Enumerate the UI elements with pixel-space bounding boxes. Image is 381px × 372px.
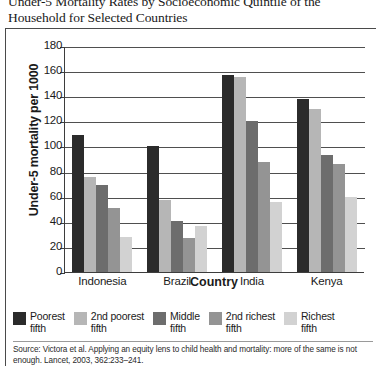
- legend-label: 2nd richest fifth: [226, 311, 275, 334]
- bar: [270, 202, 282, 272]
- legend-swatch: [284, 312, 297, 325]
- legend-item: 2nd richest fifth: [209, 311, 275, 334]
- figure-title: Under-5 Mortality Rates by Socioeconomic…: [8, 0, 368, 25]
- y-tick-label: 0: [22, 265, 62, 277]
- plot-area: 020406080100120140160180 IndonesiaBrazil…: [64, 47, 364, 273]
- legend-label: Poorest fifth: [30, 311, 65, 334]
- bar-group: Brazil: [140, 47, 215, 272]
- legend-item: Middle fifth: [153, 311, 200, 334]
- bar: [171, 221, 183, 272]
- y-tick-label: 20: [22, 240, 62, 252]
- legend-swatch: [74, 312, 87, 325]
- bar: [147, 146, 159, 272]
- bar: [96, 185, 108, 272]
- bar: [297, 99, 309, 272]
- plot-wrapper: Under-5 mortality per 1000 0204060801001…: [6, 29, 376, 287]
- figure-root: Under-5 Mortality Rates by Socioeconomic…: [0, 0, 381, 372]
- bar: [309, 109, 321, 272]
- bar: [234, 77, 246, 272]
- source-divider: [13, 341, 373, 342]
- bar: [159, 200, 171, 272]
- y-tick-label: 180: [22, 39, 62, 51]
- y-tick-label: 100: [22, 139, 62, 151]
- y-tick-label: 80: [22, 165, 62, 177]
- bar: [345, 197, 357, 272]
- bar: [333, 164, 345, 272]
- bar: [72, 135, 84, 272]
- source-note: Source: Victora et al. Applying an equit…: [13, 345, 375, 366]
- bar-group: Indonesia: [65, 47, 140, 272]
- y-tick-label: 160: [22, 64, 62, 76]
- bar: [120, 237, 132, 272]
- y-tick-label: 40: [22, 215, 62, 227]
- bar: [108, 208, 120, 272]
- legend-label: Richest fifth: [301, 311, 335, 334]
- chart-legend: Poorest fifth2nd poorest fifthMiddle fif…: [13, 311, 373, 334]
- bar: [183, 238, 195, 272]
- bar-group: Kenya: [289, 47, 364, 272]
- legend-item: Richest fifth: [284, 311, 335, 334]
- bar: [246, 121, 258, 272]
- bar: [195, 226, 207, 272]
- x-axis-label: Country: [64, 275, 364, 289]
- legend-item: 2nd poorest fifth: [74, 311, 144, 334]
- y-tick-label: 140: [22, 89, 62, 101]
- legend-swatch: [13, 312, 26, 325]
- bar-group: India: [215, 47, 290, 272]
- legend-swatch: [209, 312, 222, 325]
- bar-groups: IndonesiaBrazilIndiaKenya: [65, 47, 364, 272]
- figure-frame: Under-5 mortality per 1000 0204060801001…: [5, 28, 376, 366]
- legend-label: 2nd poorest fifth: [91, 311, 144, 334]
- bar: [222, 75, 234, 272]
- bar: [321, 155, 333, 272]
- legend-item: Poorest fifth: [13, 311, 65, 334]
- bar: [258, 162, 270, 272]
- y-tick-label: 120: [22, 114, 62, 126]
- legend-label: Middle fifth: [170, 311, 200, 334]
- y-tick-label: 60: [22, 190, 62, 202]
- legend-swatch: [153, 312, 166, 325]
- bar: [84, 177, 96, 272]
